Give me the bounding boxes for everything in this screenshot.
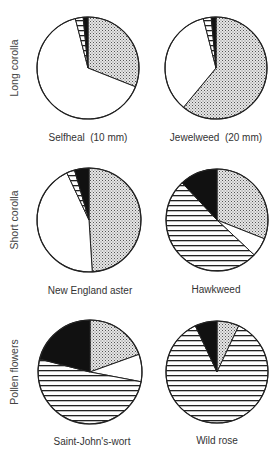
title-saint-johns-wort: Saint-John's-wort [54, 436, 131, 447]
title-new-england-aster: New England aster [48, 285, 133, 296]
pie-selfheal [37, 17, 139, 119]
pie-chart-grid: Long corolla Short corolla Pollen flower… [0, 0, 279, 457]
title-jewelweed: Jewelweed (20 mm) [170, 132, 262, 143]
row-label-long-corolla: Long corolla [8, 39, 20, 96]
row-label-short-corolla: Short corolla [8, 190, 20, 249]
row-label-pollen-flowers: Pollen flowers [8, 339, 20, 404]
title-wild-rose: Wild rose [196, 435, 238, 446]
pie-new-england-aster [37, 168, 141, 272]
pie-jewelweed [165, 17, 267, 119]
pie-saint-johns-wort [38, 320, 142, 424]
row-labels: Long corolla Short corolla Pollen flower… [8, 39, 20, 404]
pie-wild-rose [166, 321, 268, 423]
pie-slice-dotted [89, 168, 141, 272]
title-hawkweed: Hawkweed [192, 284, 241, 295]
title-selfheal: Selfheal (10 mm) [49, 132, 128, 143]
pie-hawkweed [166, 169, 268, 271]
